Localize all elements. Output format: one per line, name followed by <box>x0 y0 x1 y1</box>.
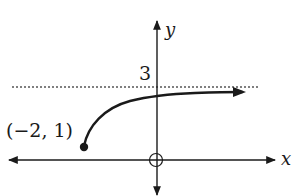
curve-arrow-icon <box>233 87 246 97</box>
x-axis-label: x <box>281 148 291 169</box>
start-point-label: (−2, 1) <box>6 119 73 141</box>
function-graph: 3 (−2, 1) y x <box>0 0 298 196</box>
y-axis-label: y <box>164 19 176 40</box>
start-point-dot <box>80 143 88 151</box>
function-curve <box>84 92 242 146</box>
asymptote-label: 3 <box>139 62 151 84</box>
